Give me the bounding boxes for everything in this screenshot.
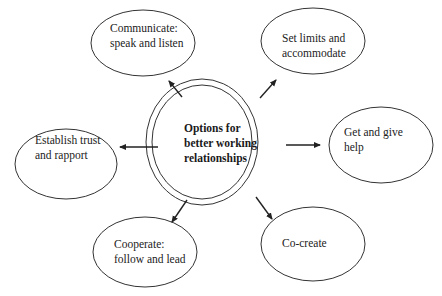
label-line: Cooperate: [114, 237, 186, 252]
label-co-create: Co-create [282, 236, 327, 251]
label-line: accommodate [282, 46, 346, 61]
label-get-give-help: Get and give help [344, 125, 403, 155]
label-line: help [344, 140, 403, 155]
label-line: Co-create [282, 236, 327, 251]
label-communicate: Communicate: speak and listen [110, 21, 183, 51]
label-line: speak and listen [110, 36, 183, 51]
center-label: Options for better working relationships [184, 121, 257, 166]
label-line: Communicate: [110, 21, 183, 36]
label-line: Establish trust [35, 133, 101, 148]
label-establish-trust: Establish trust and rapport [35, 133, 101, 163]
center-label-line3: relationships [184, 151, 257, 166]
arrow-to-cooperate [172, 200, 187, 222]
label-cooperate: Cooperate: follow and lead [114, 237, 186, 267]
center-label-line2: better working [184, 136, 257, 151]
label-set-limits: Set limits and accommodate [282, 31, 346, 61]
center-label-line1: Options for [184, 121, 257, 136]
arrow-to-set-limits [260, 80, 276, 98]
label-line: follow and lead [114, 252, 186, 267]
label-line: Get and give [344, 125, 403, 140]
label-line: and rapport [35, 148, 101, 163]
arrow-to-co-create [256, 197, 272, 219]
label-line: Set limits and [282, 31, 346, 46]
